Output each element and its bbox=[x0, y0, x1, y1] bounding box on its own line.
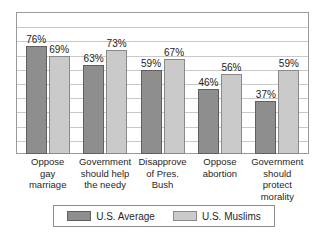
bar-slot: 59% bbox=[278, 12, 299, 154]
bar-group: 59%67% bbox=[134, 12, 191, 154]
bar-slot: 56% bbox=[221, 12, 242, 154]
bar-slot: 59% bbox=[141, 12, 162, 154]
x-tick-label-line: abortion bbox=[192, 168, 247, 180]
bar[interactable] bbox=[106, 50, 127, 154]
bar[interactable] bbox=[141, 70, 162, 154]
x-tick-label-line: morality bbox=[250, 191, 305, 203]
bar-value-label: 69% bbox=[49, 44, 69, 55]
legend-swatch-icon bbox=[67, 211, 91, 221]
bar-chart-figure: 76%69%63%73%59%67%46%56%37%59% Opposegay… bbox=[0, 0, 325, 236]
bar-slot: 46% bbox=[198, 12, 219, 154]
bar[interactable] bbox=[164, 59, 185, 154]
bar[interactable] bbox=[255, 101, 276, 154]
x-tick-label-line: Disapprove bbox=[135, 156, 190, 168]
bar-slot: 76% bbox=[26, 12, 47, 154]
bar-value-label: 59% bbox=[141, 58, 161, 69]
bar-value-label: 59% bbox=[279, 58, 299, 69]
x-tick-label-line: of Pres. bbox=[135, 168, 190, 180]
bar[interactable] bbox=[278, 70, 299, 154]
x-tick-label: Governmentshould helpthe needy bbox=[76, 156, 133, 202]
bar-slot: 73% bbox=[106, 12, 127, 154]
legend-item[interactable]: U.S. Muslims bbox=[173, 211, 261, 222]
x-tick-label-line: should help bbox=[77, 168, 132, 180]
bar-value-label: 73% bbox=[107, 38, 127, 49]
x-tick-label: Governmentshould protectmorality bbox=[249, 156, 306, 202]
bar-group: 76%69% bbox=[19, 12, 76, 154]
bar-slot: 37% bbox=[255, 12, 276, 154]
bar-value-label: 46% bbox=[198, 77, 218, 88]
legend-label: U.S. Muslims bbox=[202, 211, 261, 222]
legend-swatch-icon bbox=[173, 211, 197, 221]
bar-value-label: 76% bbox=[26, 34, 46, 45]
x-tick-label-line: Government bbox=[250, 156, 305, 168]
bar-slot: 63% bbox=[83, 12, 104, 154]
bar-value-label: 67% bbox=[164, 47, 184, 58]
x-tick-label-line: marriage bbox=[20, 179, 75, 191]
bar[interactable] bbox=[49, 56, 70, 154]
x-axis-tick-labels: OpposegaymarriageGovernmentshould helpth… bbox=[16, 156, 309, 202]
chart-legend: U.S. AverageU.S. Muslims bbox=[53, 205, 275, 227]
bar-slot: 69% bbox=[49, 12, 70, 154]
bar-group: 46%56% bbox=[191, 12, 248, 154]
x-tick-label-line: should protect bbox=[250, 168, 305, 191]
bar-groups: 76%69%63%73%59%67%46%56%37%59% bbox=[16, 12, 309, 154]
bar[interactable] bbox=[83, 65, 104, 154]
x-tick-label-line: Oppose bbox=[192, 156, 247, 168]
bar-group: 37%59% bbox=[249, 12, 306, 154]
bar-slot: 67% bbox=[164, 12, 185, 154]
bar[interactable] bbox=[26, 46, 47, 154]
x-tick-label-line: gay bbox=[20, 168, 75, 180]
x-tick-label-line: Government bbox=[77, 156, 132, 168]
x-tick-label: Opposegaymarriage bbox=[19, 156, 76, 202]
legend-item[interactable]: U.S. Average bbox=[67, 211, 155, 222]
bar[interactable] bbox=[221, 74, 242, 154]
x-tick-label: Opposeabortion bbox=[191, 156, 248, 202]
x-tick-label: Disapproveof Pres.Bush bbox=[134, 156, 191, 202]
bar[interactable] bbox=[198, 89, 219, 154]
bar-value-label: 63% bbox=[84, 53, 104, 64]
bar-value-label: 56% bbox=[221, 62, 241, 73]
x-tick-label-line: the needy bbox=[77, 179, 132, 191]
bar-group: 63%73% bbox=[76, 12, 133, 154]
x-tick-label-line: Oppose bbox=[20, 156, 75, 168]
x-tick-label-line: Bush bbox=[135, 179, 190, 191]
legend-label: U.S. Average bbox=[96, 211, 155, 222]
bar-value-label: 37% bbox=[256, 89, 276, 100]
